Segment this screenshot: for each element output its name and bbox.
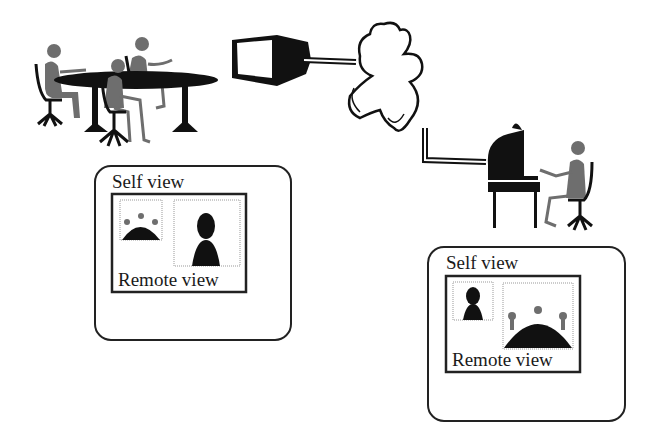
room-screen: [95, 166, 291, 340]
desktop-remote-view-label: Remote view: [452, 350, 553, 369]
room-monitor: [232, 35, 311, 86]
cable-cloud-desktop: [425, 128, 486, 162]
desk: [488, 182, 540, 192]
desktop-self-view-label: Self view: [446, 253, 518, 272]
desktop-user: [488, 123, 592, 230]
videoconference-diagram: [0, 0, 654, 429]
network-cloud: [349, 23, 422, 131]
room-self-view-label: Self view: [112, 172, 184, 191]
desktop-computer: [488, 130, 524, 180]
room-remote-view-label: Remote view: [118, 270, 219, 289]
desktop-screen: [428, 247, 625, 421]
conference-room: [36, 37, 218, 146]
conference-table: [54, 71, 218, 89]
